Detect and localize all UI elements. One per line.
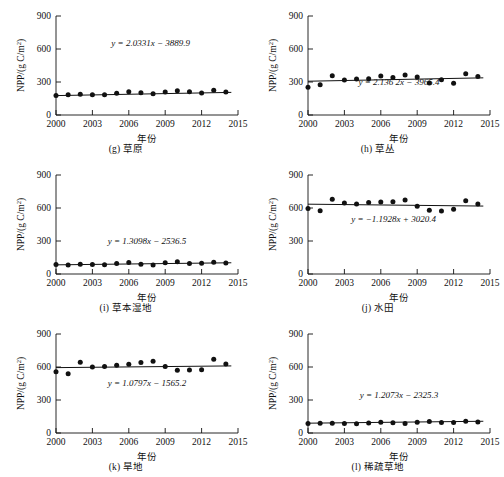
y-tick-label: 900 xyxy=(289,11,304,21)
x-tick-label: 2012 xyxy=(444,437,463,447)
x-axis-ticks: 200020032006200920122015 xyxy=(47,269,248,288)
data-point xyxy=(126,89,131,94)
data-point xyxy=(439,77,444,82)
data-point xyxy=(390,420,395,425)
data-point xyxy=(318,421,323,426)
plot-i: 0300600900200020032006200920122015NPP/(g… xyxy=(0,159,252,318)
data-point xyxy=(451,81,456,86)
data-point xyxy=(78,360,83,365)
plot-h: 0300600900200020032006200920122015NPP/(g… xyxy=(252,0,504,159)
data-point xyxy=(114,363,119,368)
y-tick-label: 900 xyxy=(289,329,304,339)
data-point xyxy=(223,361,228,366)
panel-caption-k: (k) 旱地 xyxy=(0,459,252,473)
x-tick-label: 2003 xyxy=(83,119,102,129)
equation-label: y = −1.1928x + 3020.4 xyxy=(350,214,436,224)
x-tick-label: 2000 xyxy=(47,119,66,129)
data-point xyxy=(366,421,371,426)
y-tick-label: 600 xyxy=(289,203,304,213)
x-axis-ticks: 200020032006200920122015 xyxy=(299,269,500,288)
data-point xyxy=(415,420,420,425)
data-point xyxy=(90,262,95,267)
x-axis-ticks: 200020032006200920122015 xyxy=(47,428,248,447)
equation-label: y = 1.3098x − 2536.5 xyxy=(107,236,187,246)
axes xyxy=(56,16,238,115)
x-tick-label: 2015 xyxy=(229,278,248,288)
y-axis-title: NPP/(g C/m2) xyxy=(15,198,27,251)
panel-caption-j: (j) 水田 xyxy=(252,300,504,314)
data-points xyxy=(54,259,229,267)
data-point xyxy=(211,260,216,265)
x-tick-label: 2012 xyxy=(192,437,211,447)
axes xyxy=(56,175,238,274)
equation-label: y = 1.2073x − 2325.3 xyxy=(359,390,439,400)
y-tick-label: 600 xyxy=(289,44,304,54)
x-axis-ticks: 200020032006200920122015 xyxy=(299,110,500,129)
x-tick-label: 2000 xyxy=(299,119,318,129)
data-point xyxy=(463,198,468,203)
x-tick-label: 2006 xyxy=(119,119,138,129)
data-point xyxy=(66,92,71,97)
x-tick-label: 2003 xyxy=(335,437,354,447)
data-point xyxy=(223,90,228,95)
data-point xyxy=(306,206,311,211)
y-tick-label: 300 xyxy=(37,236,52,246)
x-tick-label: 2015 xyxy=(481,119,500,129)
trend-line xyxy=(308,204,483,206)
x-tick-label: 2015 xyxy=(481,278,500,288)
x-axis-ticks: 200020032006200920122015 xyxy=(47,110,248,129)
y-tick-label: 600 xyxy=(37,203,52,213)
panel-j: 0300600900200020032006200920122015NPP/(g… xyxy=(252,159,504,318)
data-point xyxy=(151,91,156,96)
x-tick-label: 2003 xyxy=(83,278,102,288)
data-point xyxy=(78,92,83,97)
data-point xyxy=(390,199,395,204)
axes xyxy=(308,175,490,274)
data-point xyxy=(163,260,168,265)
plot-g: 0300600900200020032006200920122015NPP/(g… xyxy=(0,0,252,159)
data-point xyxy=(463,419,468,424)
data-point xyxy=(451,420,456,425)
plot-l: 0300600900200020032006200920122015NPP/(g… xyxy=(252,318,504,477)
data-point xyxy=(342,421,347,426)
data-point xyxy=(463,71,468,76)
panel-k: 0300600900200020032006200920122015NPP/(g… xyxy=(0,318,252,477)
data-point xyxy=(451,207,456,212)
data-point xyxy=(187,261,192,266)
x-tick-label: 2000 xyxy=(47,437,66,447)
equation-label: y = 1.0797x − 1565.2 xyxy=(107,378,187,388)
y-axis-ticks: 0300600900 xyxy=(37,11,61,120)
x-tick-label: 2003 xyxy=(335,119,354,129)
x-tick-label: 2009 xyxy=(408,437,427,447)
x-tick-label: 2009 xyxy=(156,437,175,447)
x-axis-ticks: 200020032006200920122015 xyxy=(299,428,500,447)
data-point xyxy=(102,92,107,97)
y-tick-label: 900 xyxy=(289,170,304,180)
panel-caption-h: (h) 草丛 xyxy=(252,141,504,155)
data-point xyxy=(138,360,143,365)
x-tick-label: 2015 xyxy=(481,437,500,447)
data-point xyxy=(102,262,107,267)
y-tick-label: 900 xyxy=(37,11,52,21)
data-point xyxy=(330,197,335,202)
data-point xyxy=(211,357,216,362)
panel-h: 0300600900200020032006200920122015NPP/(g… xyxy=(252,0,504,159)
y-tick-label: 300 xyxy=(37,77,52,87)
axes xyxy=(308,16,490,115)
data-point xyxy=(415,204,420,209)
data-point xyxy=(163,364,168,369)
data-point xyxy=(475,201,480,206)
data-point xyxy=(427,208,432,213)
data-point xyxy=(366,200,371,205)
x-tick-label: 2012 xyxy=(192,278,211,288)
y-axis-title: NPP/(g C/m2) xyxy=(267,198,279,251)
x-tick-label: 2006 xyxy=(371,119,390,129)
y-axis-title: NPP/(g C/m2) xyxy=(15,357,27,410)
data-point xyxy=(175,368,180,373)
x-tick-label: 2006 xyxy=(119,437,138,447)
data-point xyxy=(223,261,228,266)
x-tick-label: 2003 xyxy=(335,278,354,288)
data-point xyxy=(54,93,59,98)
data-point xyxy=(306,421,311,426)
y-axis-title: NPP/(g C/m2) xyxy=(15,39,27,92)
